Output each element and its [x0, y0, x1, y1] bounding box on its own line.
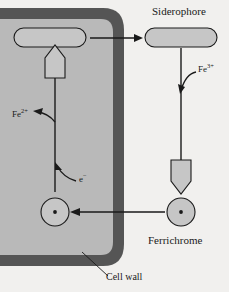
- outer-siderophore-capsule: [145, 28, 217, 47]
- ferric-ion-symbol: Fe: [198, 64, 207, 74]
- ferrichrome-down-pentagon: [171, 160, 191, 194]
- ferrichrome-outer-iron-dot: [179, 210, 183, 214]
- inner-siderophore-capsule: [14, 28, 86, 47]
- siderophore-label: Siderophore: [152, 6, 206, 17]
- ferrichrome-inner-iron-dot: [53, 210, 57, 214]
- siderophore-iron-uptake-diagram: Siderophore Ferrichrome Cell wall Fe3+ F…: [0, 0, 229, 292]
- secretion-arrow-head: [134, 34, 143, 42]
- diagram-canvas: [0, 0, 229, 292]
- electron-charge: −: [83, 172, 87, 179]
- cell-wall-label: Cell wall: [106, 272, 142, 282]
- ferrichrome-label: Ferrichrome: [148, 235, 202, 246]
- electron-label: e−: [79, 175, 87, 184]
- ferric-ion-charge: 3+: [207, 62, 214, 69]
- ferrous-ion-symbol: Fe: [12, 109, 21, 119]
- ferrous-ion-label: Fe2+: [12, 110, 28, 119]
- ferric-ion-label: Fe3+: [198, 65, 214, 74]
- ferrous-ion-charge: 2+: [21, 107, 28, 114]
